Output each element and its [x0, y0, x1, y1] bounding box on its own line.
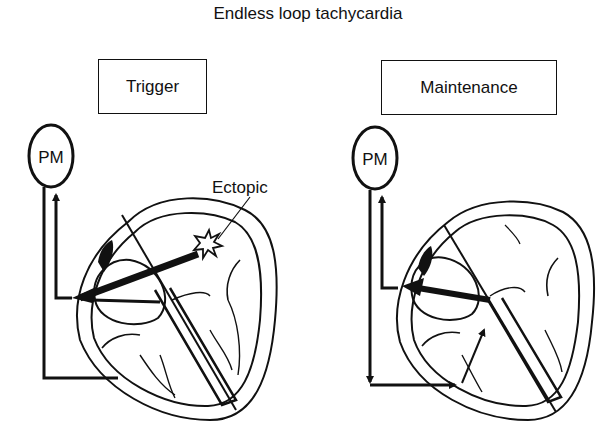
- diagram-canvas: PM: [0, 0, 616, 436]
- pm-label: PM: [362, 150, 388, 169]
- heart-icon: [77, 198, 277, 420]
- maintenance-panel: PM: [353, 127, 594, 420]
- ectopic-burst-icon: [194, 230, 222, 258]
- heart-icon: [397, 202, 594, 420]
- pm-label: PM: [38, 148, 64, 167]
- trigger-panel: PM: [29, 125, 277, 420]
- pacemaker-icon: PM: [353, 127, 397, 189]
- ectopic-label: Ectopic: [212, 178, 268, 197]
- atrial-sense-arrow: [56, 195, 72, 298]
- atrial-sense-arrow: [382, 197, 398, 288]
- pacemaker-icon: PM: [29, 125, 73, 187]
